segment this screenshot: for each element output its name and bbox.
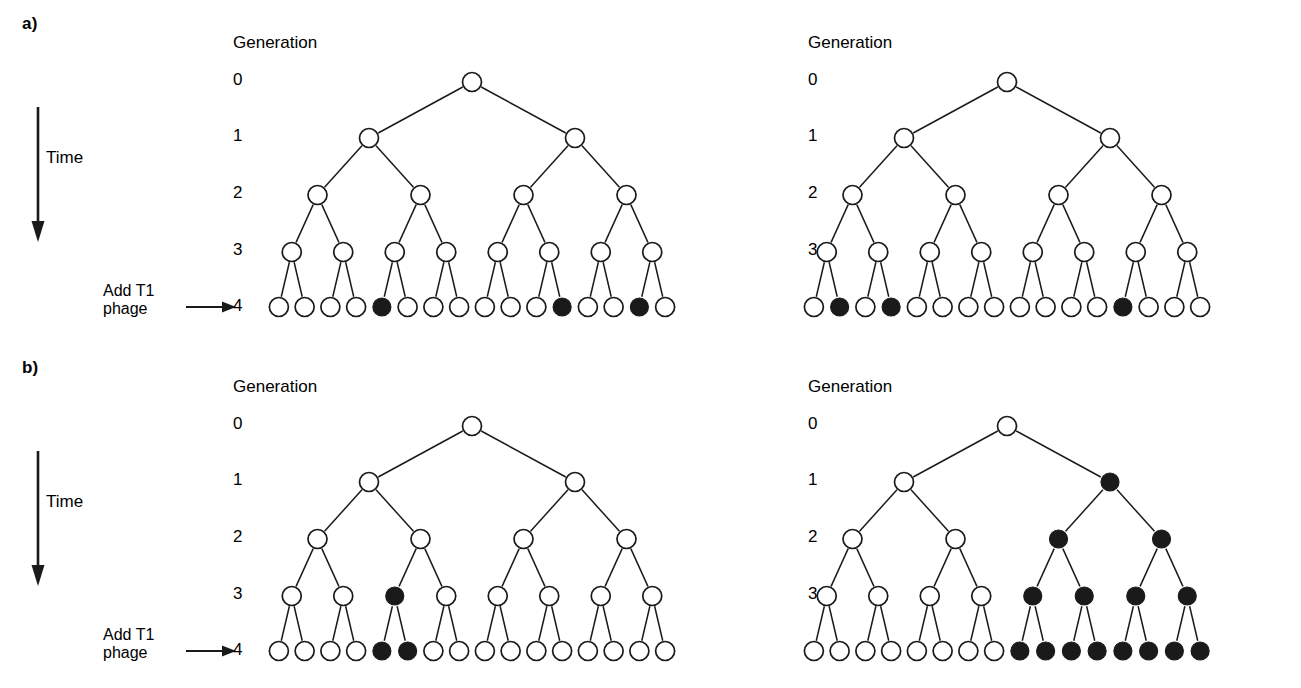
time-axis-label: Time (46, 492, 83, 512)
sensitive-cell-node (1023, 243, 1042, 262)
tree-b-left (240, 344, 710, 688)
sensitive-cell-node (972, 243, 991, 262)
sensitive-cell-node (946, 186, 965, 205)
sensitive-cell-node (1191, 298, 1210, 317)
sensitive-cell-node (553, 642, 572, 661)
sensitive-cell-node (1036, 298, 1055, 317)
sensitive-cell-node (295, 298, 314, 317)
panel-a: a)TimeAdd T1phageGeneration01234Generati… (0, 0, 1301, 344)
sensitive-cell-node (856, 298, 875, 317)
resistant-cell-node (386, 587, 404, 605)
sensitive-cell-node (411, 186, 430, 205)
sensitive-cell-node (347, 642, 366, 661)
sensitive-cell-node (282, 587, 301, 606)
resistant-cell-node (1191, 642, 1209, 660)
sensitive-cell-node (817, 243, 836, 262)
sensitive-cell-node (475, 298, 494, 317)
sensitive-cell-node (321, 298, 340, 317)
resistant-cell-node (1127, 587, 1145, 605)
sensitive-cell-node (514, 530, 533, 549)
sensitive-cell-node (347, 298, 366, 317)
resistant-cell-node (1024, 587, 1042, 605)
sensitive-cell-node (643, 587, 662, 606)
sensitive-cell-node (360, 473, 379, 492)
sensitive-cell-node (817, 587, 836, 606)
sensitive-cell-node (282, 243, 301, 262)
sensitive-cell-node (450, 642, 469, 661)
sensitive-cell-node (360, 129, 379, 148)
sensitive-cell-node (843, 530, 862, 549)
time-axis-arrow-icon (28, 105, 118, 245)
sensitive-cell-node (566, 473, 585, 492)
sensitive-cell-node (308, 530, 327, 549)
tree-b-right (775, 344, 1245, 688)
sensitive-cell-node (450, 298, 469, 317)
sensitive-cell-node (527, 642, 546, 661)
sensitive-cell-node (804, 298, 823, 317)
sensitive-cell-node (869, 243, 888, 262)
resistant-cell-node (1114, 642, 1132, 660)
sensitive-cell-node (895, 473, 914, 492)
sensitive-cell-node (488, 243, 507, 262)
add-t1-phage-line1: Add T1 (103, 282, 154, 299)
sensitive-cell-node (411, 530, 430, 549)
sensitive-cell-node (1101, 129, 1120, 148)
sensitive-cell-node (514, 186, 533, 205)
sensitive-cell-node (475, 642, 494, 661)
resistant-cell-node (1140, 642, 1158, 660)
sensitive-cell-node (501, 298, 520, 317)
sensitive-cell-node (985, 642, 1004, 661)
sensitive-cell-node (959, 298, 978, 317)
sensitive-cell-node (617, 186, 636, 205)
panel-label-a: a) (22, 14, 38, 34)
sensitive-cell-node (972, 587, 991, 606)
panel-b: b)TimeAdd T1phageGeneration01234Generati… (0, 344, 1301, 688)
sensitive-cell-node (463, 73, 482, 92)
sensitive-cell-node (334, 243, 353, 262)
sensitive-cell-node (998, 417, 1017, 436)
sensitive-cell-node (933, 642, 952, 661)
sensitive-cell-node (308, 186, 327, 205)
sensitive-cell-node (604, 642, 623, 661)
sensitive-cell-node (656, 298, 675, 317)
sensitive-cell-node (907, 642, 926, 661)
resistant-cell-node (1075, 587, 1093, 605)
sensitive-cell-node (591, 587, 610, 606)
sensitive-cell-node (566, 129, 585, 148)
sensitive-cell-node (882, 642, 901, 661)
sensitive-cell-node (920, 587, 939, 606)
sensitive-cell-node (1165, 298, 1184, 317)
resistant-cell-node (1062, 642, 1080, 660)
sensitive-cell-node (540, 243, 559, 262)
sensitive-cell-node (1139, 298, 1158, 317)
resistant-cell-node (882, 298, 900, 316)
resistant-cell-node (1011, 642, 1029, 660)
resistant-cell-node (373, 298, 391, 316)
add-t1-phage-arrow-icon (186, 644, 238, 658)
resistant-cell-node (399, 642, 417, 660)
sensitive-cell-node (269, 642, 288, 661)
sensitive-cell-node (856, 642, 875, 661)
sensitive-cell-node (334, 587, 353, 606)
time-axis-arrow-icon (28, 449, 118, 589)
add-t1-phage-line1: Add T1 (103, 626, 154, 643)
panel-label-b: b) (22, 358, 38, 378)
sensitive-cell-node (959, 642, 978, 661)
sensitive-cell-node (1062, 298, 1081, 317)
sensitive-cell-node (869, 587, 888, 606)
sensitive-cell-node (998, 73, 1017, 92)
sensitive-cell-node (578, 298, 597, 317)
sensitive-cell-node (804, 642, 823, 661)
resistant-cell-node (1114, 298, 1132, 316)
sensitive-cell-node (604, 298, 623, 317)
sensitive-cell-node (830, 642, 849, 661)
sensitive-cell-node (591, 243, 610, 262)
resistant-cell-node (1050, 530, 1068, 548)
resistant-cell-node (1037, 642, 1055, 660)
tree-a-right (775, 0, 1245, 344)
sensitive-cell-node (933, 298, 952, 317)
resistant-cell-node (831, 298, 849, 316)
tree-a-left (240, 0, 710, 344)
add-t1-phage-arrow-icon (186, 300, 238, 314)
sensitive-cell-node (985, 298, 1004, 317)
